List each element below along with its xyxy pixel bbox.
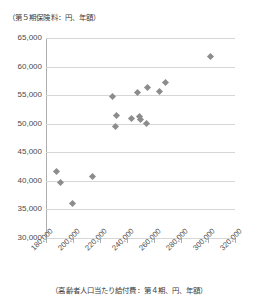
x-axis-tick-mark [235, 239, 236, 243]
x-axis-tick-mark [154, 239, 155, 243]
x-axis-tick-mark [46, 239, 47, 243]
x-axis-tick-label: 320,000 [218, 227, 244, 253]
x-axis-tick-mark [100, 239, 101, 243]
x-axis-title: （高齢者人口当たり給付費：第４期、円、年額） [0, 284, 259, 295]
x-axis-tick-label: 220,000 [83, 227, 109, 253]
x-axis-tick-mark [181, 239, 182, 243]
x-axis-tick-mark [73, 239, 74, 243]
x-axis-tick-mark [127, 239, 128, 243]
x-axis-tick-mark [208, 239, 209, 243]
x-axis-tick-label: 300,000 [191, 227, 217, 253]
x-axis-tick-label: 180,000 [29, 227, 55, 253]
x-axis-tick-label: 280,000 [164, 227, 190, 253]
x-axis-tick-label: 200,000 [56, 227, 82, 253]
x-axis-tick-label: 260,000 [137, 227, 163, 253]
x-axis-tick-labels: 180,000200,000220,000240,000260,000280,0… [0, 0, 259, 302]
x-axis-tick-label: 240,000 [110, 227, 136, 253]
scatter-chart-figure: （第５期保険料：円、年額） 30,00035,00040,00045,00050… [0, 0, 259, 302]
